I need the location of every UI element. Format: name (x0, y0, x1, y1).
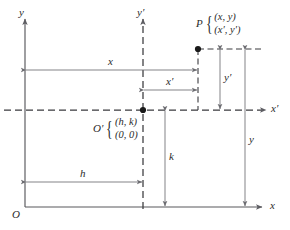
point-o-prime-brace: { (106, 119, 113, 137)
diagram-canvas (0, 0, 290, 230)
point-o-prime-letter: O′ (93, 122, 104, 134)
origin-label: O (12, 209, 20, 220)
point-o-prime-coord-xy: (h, k) (115, 115, 138, 128)
point-p-coord-xy-prime: (x′, y′) (214, 23, 240, 36)
dimension-y-prime-label: y′ (224, 72, 231, 83)
point-p-letter: P (196, 17, 204, 29)
point-p-coord-xy: (x, y) (214, 10, 240, 23)
point-p-marker (195, 46, 201, 52)
translated-axes (4, 19, 266, 209)
dimension-y-label: y (249, 134, 254, 145)
y-prime-axis-label: y′ (137, 7, 144, 18)
point-p-brace: { (206, 14, 213, 32)
point-p-annotation: P { (x, y) (x′, y′) (196, 10, 240, 37)
dimension-k-label: k (169, 151, 174, 162)
dimension-x-label: x (108, 56, 113, 67)
x-axis-label: x (270, 200, 275, 211)
point-o-prime-coordinates: (h, k) (0, 0) (115, 115, 138, 142)
y-axis-label: y (19, 7, 24, 18)
x-prime-axis-label: x′ (271, 103, 278, 114)
point-o-prime-marker (140, 107, 146, 113)
dimension-h-label: h (80, 168, 86, 179)
point-o-prime-coord-xy-prime: (0, 0) (115, 128, 138, 141)
dimension-x-prime-label: x′ (166, 76, 173, 87)
point-o-prime-annotation: O′ { (h, k) (0, 0) (93, 115, 138, 142)
translation-of-axes-diagram: y y′ x′ x O x x′ h y′ y k P { (x, y) (x′… (0, 0, 290, 230)
point-p-coordinates: (x, y) (x′, y′) (214, 10, 240, 37)
